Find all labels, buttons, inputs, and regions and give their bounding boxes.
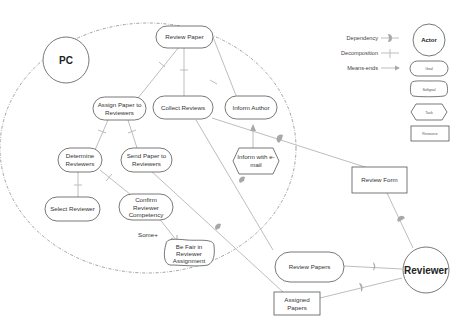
svg-text:Resource: Resource bbox=[422, 132, 437, 136]
task-send-paper[interactable]: Send Paper to Reviewers bbox=[121, 148, 172, 172]
actor-reviewer-label: Reviewer bbox=[404, 265, 448, 276]
decomposition-link bbox=[213, 37, 237, 98]
dependency-marker-icon bbox=[215, 224, 221, 230]
legend-decomposition-label: Decomposition bbox=[341, 50, 378, 56]
legend: Dependency Decomposition Means-ends Acto… bbox=[341, 24, 449, 141]
dependency-marker-icon bbox=[359, 283, 363, 292]
dependency-link bbox=[196, 120, 273, 250]
svg-text:Review Papers: Review Papers bbox=[289, 263, 331, 270]
dependency-link bbox=[150, 170, 283, 292]
svg-text:Inform Author: Inform Author bbox=[232, 104, 269, 111]
contribution-link bbox=[158, 217, 177, 241]
svg-text:Reviewers: Reviewers bbox=[105, 109, 134, 116]
legend-dependency-label: Dependency bbox=[347, 35, 379, 41]
svg-text:Review Paper: Review Paper bbox=[165, 33, 204, 40]
task-review-papers[interactable]: Review Papers bbox=[275, 252, 344, 282]
svg-text:Review Form: Review Form bbox=[361, 176, 397, 183]
svg-text:Collect Reviews: Collect Reviews bbox=[161, 104, 205, 111]
svg-text:Determine: Determine bbox=[66, 152, 95, 159]
svg-text:Reviewer: Reviewer bbox=[133, 204, 159, 211]
svg-text:Be Fair in: Be Fair in bbox=[176, 243, 203, 250]
istar-diagram: PC Review Paper Assign Paper to Reviewer… bbox=[0, 0, 475, 330]
decomposition-link bbox=[95, 120, 108, 150]
svg-text:Softgoal: Softgoal bbox=[422, 88, 435, 92]
svg-text:Assign Paper to: Assign Paper to bbox=[98, 101, 142, 108]
decomposition-link bbox=[128, 120, 137, 148]
svg-text:Send Paper to: Send Paper to bbox=[127, 152, 167, 159]
svg-text:Actor: Actor bbox=[421, 37, 437, 43]
actor-reviewer[interactable]: Reviewer bbox=[403, 247, 449, 293]
dependency-link bbox=[344, 266, 402, 269]
arrow-head-icon bbox=[250, 124, 256, 131]
svg-text:Assignment: Assignment bbox=[173, 257, 206, 264]
svg-text:Assigned: Assigned bbox=[284, 296, 310, 303]
task-review-paper[interactable]: Review Paper bbox=[156, 26, 213, 48]
contribution-label: Some+ bbox=[138, 231, 158, 238]
legend-means-ends-label: Means-ends bbox=[347, 65, 378, 71]
task-collect-reviews[interactable]: Collect Reviews bbox=[153, 96, 213, 119]
svg-text:Goal: Goal bbox=[425, 67, 433, 71]
resource-review-form[interactable]: Review Form bbox=[352, 167, 407, 193]
svg-text:Task: Task bbox=[425, 111, 433, 115]
task-assign-paper[interactable]: Assign Paper to Reviewers bbox=[93, 97, 146, 120]
dependency-marker-icon bbox=[277, 135, 283, 143]
actor-pc-label: PC bbox=[59, 55, 73, 66]
svg-text:Confirm: Confirm bbox=[135, 196, 157, 203]
task-inform-email[interactable]: Inform with e- mail bbox=[233, 148, 279, 174]
svg-text:Reviewers: Reviewers bbox=[132, 160, 161, 167]
diagram-canvas: PC Review Paper Assign Paper to Reviewer… bbox=[0, 0, 475, 330]
actor-pc[interactable]: PC bbox=[43, 37, 89, 83]
svg-text:Reviewers: Reviewers bbox=[66, 160, 95, 167]
task-inform-author[interactable]: Inform Author bbox=[225, 96, 277, 119]
decomposition-link bbox=[100, 170, 131, 195]
svg-text:mail: mail bbox=[250, 161, 261, 168]
arrow-head-icon bbox=[395, 66, 400, 71]
svg-text:Competency: Competency bbox=[129, 211, 165, 218]
decomposition-mark bbox=[98, 130, 106, 133]
svg-text:Reviewer: Reviewer bbox=[176, 250, 202, 257]
dependency-marker-icon bbox=[373, 262, 375, 271]
svg-text:Inform with e-: Inform with e- bbox=[237, 153, 274, 160]
svg-text:Select Reviewer: Select Reviewer bbox=[50, 205, 95, 212]
task-determine-reviewers[interactable]: Determine Reviewers bbox=[58, 148, 102, 172]
task-select-reviewer[interactable]: Select Reviewer bbox=[45, 197, 100, 221]
decomposition-mark bbox=[159, 62, 165, 67]
softgoal-be-fair[interactable]: Be Fair in Reviewer Assignment bbox=[164, 239, 214, 266]
svg-text:Papers: Papers bbox=[287, 304, 307, 311]
task-confirm-competency[interactable]: Confirm Reviewer Competency bbox=[119, 194, 173, 220]
decomposition-mark bbox=[210, 80, 217, 84]
resource-assigned-papers[interactable]: Assigned Papers bbox=[274, 292, 320, 315]
dependency-marker-icon bbox=[239, 177, 245, 183]
